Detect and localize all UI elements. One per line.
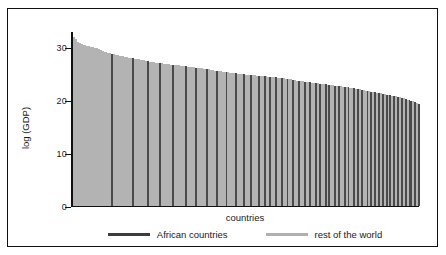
- legend-item-rest-of-world: rest of the world: [266, 229, 383, 240]
- y-tick-label: 30: [57, 43, 67, 53]
- bar: [418, 104, 420, 206]
- figure-frame: log (GDP) 0102030 countries African coun…: [7, 8, 438, 247]
- legend-item-african: African countries: [108, 229, 228, 240]
- bar-series: [73, 32, 419, 206]
- chart-legend: African countries rest of the world: [71, 229, 419, 240]
- legend-label-rest-of-world: rest of the world: [315, 229, 383, 240]
- plot-area: 0102030: [71, 32, 419, 207]
- legend-swatch-african: [108, 233, 150, 235]
- y-tick-label: 10: [57, 149, 67, 159]
- y-tick-label: 0: [62, 202, 67, 212]
- x-axis-title: countries: [71, 212, 419, 223]
- y-tick-label: 20: [57, 96, 67, 106]
- legend-label-african: African countries: [157, 229, 228, 240]
- legend-swatch-rest-of-world: [266, 233, 308, 235]
- y-axis-title: log (GDP): [20, 106, 31, 148]
